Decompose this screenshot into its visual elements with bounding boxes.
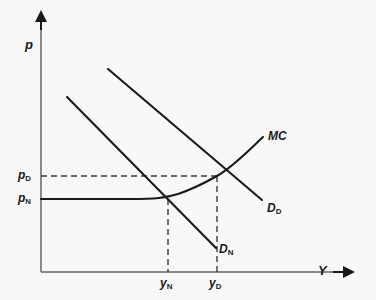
price-tick-pN-sub: N — [25, 197, 31, 206]
economics-diagram: p Y pD pN yN yD MC DD DN — [0, 0, 376, 300]
curve-label-demand-domestic-sub: D — [276, 207, 282, 216]
curve-label-marginal-cost: MC — [268, 130, 287, 142]
quantity-tick-yD: yD — [209, 277, 221, 289]
quantity-tick-yN-base: y — [160, 276, 167, 290]
price-tick-pN: pN — [18, 192, 31, 204]
demand-national-curve — [67, 97, 216, 248]
curve-label-demand-national: DN — [219, 243, 233, 255]
marginal-cost-curve — [41, 137, 263, 199]
price-tick-pD: pD — [18, 169, 31, 181]
y-axis-label: p — [25, 38, 33, 51]
curve-label-demand-national-base: D — [219, 242, 228, 256]
quantity-tick-yN: yN — [160, 277, 172, 289]
price-tick-pD-sub: D — [25, 174, 31, 183]
demand-domestic-curve — [108, 69, 262, 200]
x-axis-label: Y — [318, 264, 327, 277]
quantity-tick-yN-sub: N — [167, 282, 173, 291]
curve-label-demand-domestic: DD — [267, 202, 281, 214]
curve-label-demand-domestic-base: D — [267, 201, 276, 215]
diagram-canvas — [0, 0, 376, 300]
quantity-tick-yD-base: y — [209, 276, 216, 290]
curve-label-demand-national-sub: N — [228, 248, 234, 257]
quantity-tick-yD-sub: D — [216, 282, 222, 291]
